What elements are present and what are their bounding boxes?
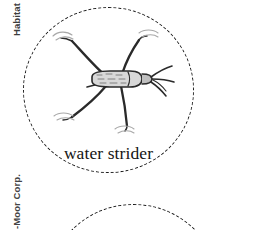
species-caption: water strider bbox=[23, 143, 194, 164]
habitat-section-label: Habitat bbox=[12, 3, 22, 36]
habitat-circle-second bbox=[48, 204, 219, 230]
hind-leg-right bbox=[121, 86, 127, 126]
hind-leg-left bbox=[72, 86, 106, 117]
front-leg-right bbox=[122, 40, 139, 74]
water-strider-illustration bbox=[22, 16, 182, 141]
antenna-upper bbox=[151, 66, 172, 77]
publisher-copyright-label: -Moor Corp. bbox=[12, 174, 22, 229]
water-strider-svg bbox=[22, 16, 182, 141]
worksheet-page: Habitat -Moor Corp. bbox=[0, 0, 261, 230]
front-leg-left-tarsus bbox=[61, 38, 72, 41]
